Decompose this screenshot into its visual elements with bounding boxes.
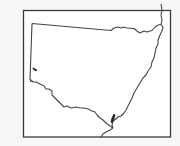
map <box>0 0 180 146</box>
